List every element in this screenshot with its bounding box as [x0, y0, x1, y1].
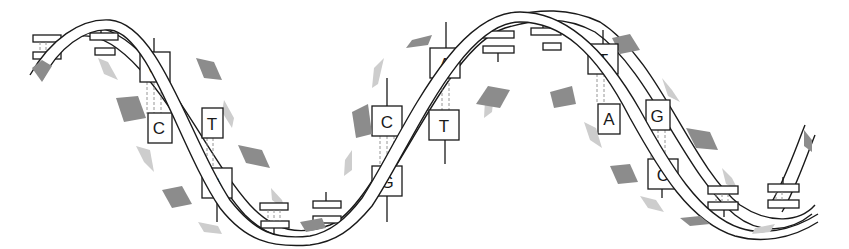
backbone-patch	[98, 58, 118, 80]
backbone-patch	[198, 222, 222, 234]
dna-double-helix-diagram: G C T A C G	[0, 0, 849, 249]
backbone-patch	[352, 104, 372, 138]
backbone-patch	[406, 35, 432, 48]
backbone-patch	[550, 86, 576, 108]
edge-on-base-pair	[483, 31, 514, 62]
base-label: T	[439, 117, 449, 136]
backbone-patch	[610, 164, 638, 184]
edge-on-base-pair	[313, 192, 341, 223]
base-label: G	[650, 107, 663, 126]
backbone-patch	[476, 86, 510, 108]
backbone-patch	[344, 150, 352, 176]
base-label: A	[603, 110, 615, 129]
backbone-patch	[136, 146, 154, 172]
backbone-patch	[222, 100, 234, 128]
backbone-patch	[196, 58, 222, 80]
base-label: C	[381, 113, 393, 132]
base-label: T	[207, 115, 217, 134]
backbone-patch	[238, 145, 270, 168]
backbone-patch	[372, 58, 384, 88]
base-label: C	[153, 119, 165, 138]
backbone-patch	[162, 186, 192, 208]
backbone-patch	[116, 96, 146, 122]
backbone-patch	[640, 196, 664, 212]
